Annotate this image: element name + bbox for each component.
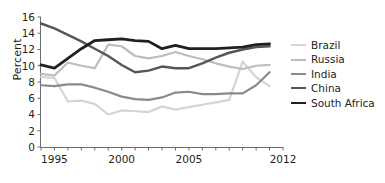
legend-item-india[interactable]: India [291, 67, 385, 81]
chart-legend: BrazilRussiaIndiaChinaSouth Africa [291, 38, 385, 110]
y-tick-label: 12 [22, 43, 35, 55]
legend-item-label: Russia [311, 54, 345, 65]
x-tick-label: 2000 [108, 153, 135, 165]
legend-item-russia[interactable]: Russia [291, 52, 385, 66]
legend-item-south-africa[interactable]: South Africa [291, 96, 385, 110]
y-tick-label: 14 [22, 27, 36, 39]
y-tick-label: 6 [28, 92, 35, 104]
series-line-russia [41, 45, 270, 76]
y-tick-label: 4 [28, 108, 35, 120]
y-tick-label: 2 [28, 125, 35, 137]
line-chart: Percent 0246810121416 1995200020052012 B… [0, 0, 385, 183]
y-axis-ticks: 0246810121416 [22, 11, 41, 153]
legend-item-label: China [311, 83, 341, 94]
legend-item-label: India [311, 69, 337, 80]
y-tick-label: 10 [22, 60, 35, 72]
x-tick-label: 1995 [41, 153, 68, 165]
legend-swatch-icon [291, 59, 306, 61]
legend-swatch-icon [291, 73, 306, 75]
y-tick-label: 8 [28, 76, 35, 88]
x-axis-ticks: 1995200020052012 [41, 147, 296, 165]
legend-item-label: Brazil [311, 40, 340, 51]
legend-swatch-icon [291, 44, 306, 46]
legend-item-label: South Africa [311, 98, 375, 109]
legend-item-brazil[interactable]: Brazil [291, 38, 385, 52]
legend-item-china[interactable]: China [291, 81, 385, 95]
data-series-group [41, 24, 270, 115]
y-tick-label: 16 [22, 11, 36, 23]
legend-swatch-icon [291, 102, 306, 104]
series-line-india [41, 72, 270, 100]
x-tick-label: 2012 [270, 153, 297, 165]
legend-swatch-icon [291, 87, 306, 89]
y-tick-label: 0 [28, 141, 35, 153]
x-tick-label: 2005 [176, 153, 203, 165]
